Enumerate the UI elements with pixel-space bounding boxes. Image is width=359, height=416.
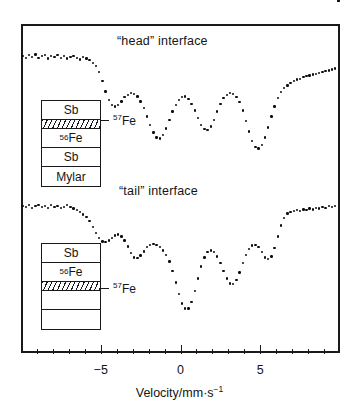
spectrum-data-point (242, 109, 244, 111)
spectrum-data-point (72, 207, 74, 209)
spectrum-data-point (245, 254, 247, 256)
spectrum-data-point (226, 94, 228, 96)
x-axis-tick-label: 0 (177, 363, 184, 377)
spectrum-data-point (21, 205, 23, 207)
spectrum-data-point (321, 71, 323, 73)
spectrum-data-point (254, 244, 256, 246)
spectrum-data-point (162, 249, 164, 251)
layer-isotope-marked (42, 282, 100, 291)
spectrum-data-point (328, 69, 330, 71)
layer-fe: 56Fe (42, 263, 100, 282)
spectrum-data-point (69, 56, 71, 58)
spectrum-data-point (21, 55, 23, 57)
spectrum-data-point (69, 206, 71, 208)
spectrum-data-point (104, 90, 106, 92)
spectrum-data-point (324, 207, 326, 209)
spectrum-data-point (187, 98, 189, 100)
x-axis-minor-tick (37, 349, 38, 354)
spectrum-data-point (155, 136, 157, 138)
spectrum-data-point (111, 104, 113, 106)
spectrum-data-point (190, 103, 192, 105)
spectrum-data-point (171, 270, 173, 272)
x-axis-minor-tick (324, 349, 325, 354)
isotope-element-symbol: Fe (122, 282, 136, 296)
spectrum-data-point (159, 137, 161, 139)
x-axis-minor-tick (165, 349, 166, 354)
spectrum-data-point (312, 208, 314, 210)
spectrum-data-point (331, 68, 333, 70)
spectrum-data-point (235, 279, 237, 281)
spectrum-data-point (114, 234, 116, 236)
spectrum-data-point (175, 104, 177, 106)
spectrum-data-point (127, 245, 129, 247)
x-axis-minor-tick (133, 349, 134, 354)
x-axis-major-tick (101, 345, 102, 354)
spectrum-data-point (120, 235, 122, 237)
spectrum-data-point (219, 103, 221, 105)
spectrum-data-point (289, 211, 291, 213)
spectrum-data-point (277, 235, 279, 237)
x-axis-minor-tick (149, 349, 150, 354)
x-axis-minor-tick (85, 349, 86, 354)
spectrum-data-point (273, 105, 275, 107)
spectrum-data-point (127, 94, 129, 96)
spectrum-data-point (85, 57, 87, 59)
mossbauer-spectra-figure: “head” interface “tail” interface Sb56Fe… (0, 0, 359, 416)
layer-sb: Sb (42, 148, 100, 167)
spectrum-data-point (139, 100, 141, 102)
spectrum-data-point (79, 58, 81, 60)
layer-isotope-marked (42, 120, 100, 129)
x-axis-label: Velocity/mm·s−1 (0, 384, 359, 400)
spectrum-data-point (168, 119, 170, 121)
spectrum-data-point (280, 224, 282, 226)
x-axis-tick-label: 5 (257, 363, 264, 377)
head-isotope-pointer (101, 120, 109, 121)
spectrum-data-point (136, 95, 138, 97)
x-axis-minor-tick (276, 349, 277, 354)
spectrum-data-point (206, 129, 208, 131)
spectrum-data-point (222, 270, 224, 272)
spectrum-data-point (146, 115, 148, 117)
spectrum-data-point (101, 240, 103, 242)
spectrum-data-point (197, 277, 199, 279)
spectrum-data-point (308, 207, 310, 209)
spectrum-data-point (139, 254, 141, 256)
tail-panel-title: “tail” interface (119, 184, 198, 198)
x-axis-minor-tick (69, 349, 70, 354)
spectrum-data-point (308, 74, 310, 76)
spectrum-data-point (257, 147, 259, 149)
layer-mylar: Mylar (42, 167, 100, 186)
head-layer-stack-diagram: Sb56FeSbMylar (41, 100, 101, 187)
spectrum-data-point (92, 62, 94, 64)
x-axis-minor-tick (212, 349, 213, 354)
spectrum-data-point (143, 250, 145, 252)
spectrum-data-point (123, 239, 125, 241)
spectrum-data-point (194, 109, 196, 111)
layer-label: Sb (64, 247, 79, 259)
spectrum-data-point (254, 146, 256, 148)
head-isotope-label: 57Fe (113, 113, 136, 128)
spectrum-data-point (60, 207, 62, 209)
spectrum-data-point (321, 206, 323, 208)
spectrum-data-point (270, 115, 272, 117)
spectrum-data-point (168, 260, 170, 262)
spectrum-data-point (34, 205, 36, 207)
layer-fe: 56Fe (42, 129, 100, 148)
tail-layer-stack-diagram: Sb56Fe (41, 243, 101, 330)
spectrum-data-point (270, 255, 272, 257)
spectrum-data-point (108, 239, 110, 241)
spectrum-data-point (178, 99, 180, 101)
spectrum-data-point (302, 76, 304, 78)
spectrum-data-point (273, 247, 275, 249)
spectrum-data-point (114, 105, 116, 107)
x-axis-minor-tick (53, 349, 54, 354)
layer-blank (42, 291, 100, 310)
spectrum-data-point (25, 206, 27, 208)
x-axis-minor-tick (292, 349, 293, 354)
spectrum-data-point (337, 0, 339, 2)
x-axis: −505 (21, 353, 340, 354)
x-axis-minor-tick (308, 349, 309, 354)
spectrum-data-point (222, 97, 224, 99)
x-axis-minor-tick (228, 349, 229, 354)
spectrum-data-point (60, 57, 62, 59)
